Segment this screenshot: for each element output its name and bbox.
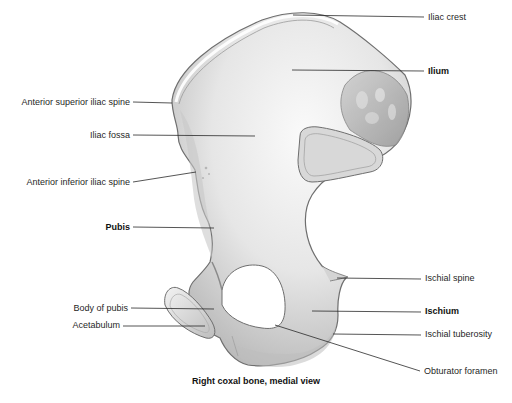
label-acetabulum: Acetabulum (72, 320, 120, 331)
label-ischial-tuberosity: Ischial tuberosity (425, 329, 492, 340)
coxal-bone-illustration (0, 0, 512, 403)
label-pubis: Pubis (105, 222, 130, 233)
label-body-of-pubis: Body of pubis (73, 303, 128, 314)
label-iliac-crest: Iliac crest (428, 12, 466, 23)
label-anterior-inferior-iliac-spine: Anterior inferior iliac spine (26, 177, 130, 188)
label-ischium: Ischium (425, 306, 459, 317)
bone-body (172, 13, 411, 366)
coxal-bone-diagram: Iliac crest Ilium Ischial spine Ischium … (0, 0, 512, 403)
label-ilium: Ilium (428, 66, 449, 77)
leader-ischial-spine (337, 278, 421, 279)
leader-asis (133, 102, 172, 103)
label-anterior-superior-iliac-spine: Anterior superior iliac spine (21, 97, 130, 108)
leader-aiis (133, 172, 196, 182)
label-iliac-fossa: Iliac fossa (90, 130, 130, 141)
figure-caption: Right coxal bone, medial view (0, 376, 512, 386)
label-ischial-spine: Ischial spine (425, 273, 475, 284)
leader-ischial-tuberosity (333, 334, 421, 335)
